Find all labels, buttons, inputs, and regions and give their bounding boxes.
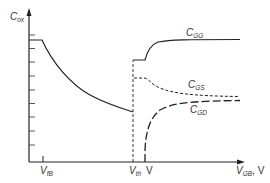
cgg-curve [133,40,240,61]
y-axis-arrow [27,8,32,16]
cgd-label: CGD [190,105,207,117]
y-ticks [29,35,35,145]
x-axis-arrow [237,160,245,165]
vfb-label: VfB [40,166,53,178]
cox-label: Cox [10,12,24,24]
vgb-label: VGB, V [236,166,264,178]
capacitance-diagram [0,0,270,183]
cgg-depletion-curve [29,40,133,112]
v-extra-label: V [146,166,153,176]
vth-label: Vth [129,166,141,178]
cgs-curve [134,78,240,97]
cgg-label: CGG [186,28,203,40]
cgs-label: CGS [188,80,205,92]
